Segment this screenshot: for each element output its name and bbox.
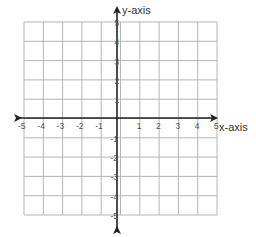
x-tick-label: -1 bbox=[95, 121, 103, 131]
y-tick-label: 2 bbox=[115, 76, 120, 86]
x-tick-label: 3 bbox=[175, 121, 180, 131]
x-tick-label: 2 bbox=[156, 121, 161, 131]
y-tick-label: -3 bbox=[111, 172, 119, 182]
x-tick-label: -4 bbox=[37, 121, 45, 131]
y-tick-label: 3 bbox=[115, 57, 120, 67]
x-tick-label: -5 bbox=[18, 121, 26, 131]
x-tick-labels: -5-4-3-2-112345 bbox=[18, 121, 219, 131]
y-tick-label: 1 bbox=[115, 95, 120, 105]
x-axis-title: x-axis bbox=[219, 121, 248, 133]
x-tick-label: -3 bbox=[57, 121, 65, 131]
x-tick-label: -2 bbox=[76, 121, 84, 131]
y-tick-label: -4 bbox=[111, 192, 119, 202]
x-tick-label: 1 bbox=[137, 121, 142, 131]
y-tick-label: -5 bbox=[111, 211, 119, 221]
y-tick-labels: 54321-1-2-3-4-5 bbox=[111, 18, 120, 221]
x-tick-label: 4 bbox=[195, 121, 200, 131]
coordinate-plane: -5-4-3-2-112345 54321-1-2-3-4-5 y-axis x… bbox=[0, 0, 256, 237]
y-axis-title: y-axis bbox=[122, 4, 151, 16]
y-tick-label: -2 bbox=[111, 153, 119, 163]
y-tick-label: 5 bbox=[115, 18, 120, 28]
y-tick-label: -1 bbox=[111, 134, 119, 144]
y-tick-label: 4 bbox=[115, 37, 120, 47]
